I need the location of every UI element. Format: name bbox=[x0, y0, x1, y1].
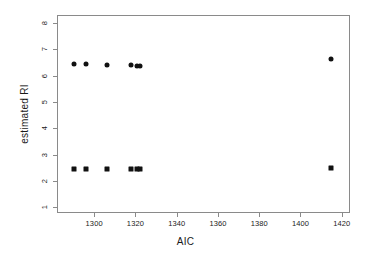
x-axis-tick bbox=[218, 213, 219, 217]
data-point bbox=[83, 166, 88, 171]
y-axis-tick-label: 6 bbox=[40, 73, 49, 77]
data-point bbox=[129, 167, 134, 172]
scatter-plot-figure: 1300132013401360138014001420 12345678 AI… bbox=[0, 0, 371, 261]
y-axis-tick-label: 4 bbox=[40, 126, 49, 130]
y-axis-tick-label: 7 bbox=[40, 47, 49, 51]
data-point bbox=[137, 63, 142, 68]
data-point bbox=[104, 167, 109, 172]
data-point bbox=[71, 61, 76, 66]
data-point bbox=[83, 62, 88, 67]
x-axis-tick bbox=[94, 213, 95, 217]
y-axis-tick bbox=[53, 128, 57, 129]
y-axis-tick bbox=[53, 207, 57, 208]
x-axis-tick bbox=[259, 213, 260, 217]
x-axis-tick-label: 1340 bbox=[168, 219, 185, 228]
y-axis-tick-label: 3 bbox=[40, 152, 49, 156]
data-point bbox=[137, 167, 142, 172]
y-axis-title: estimated RI bbox=[19, 84, 30, 144]
x-axis-title: AIC bbox=[0, 236, 371, 247]
x-axis-tick bbox=[135, 213, 136, 217]
x-axis-tick bbox=[300, 213, 301, 217]
data-point bbox=[71, 166, 76, 171]
data-point bbox=[329, 165, 334, 170]
x-axis-tick bbox=[177, 213, 178, 217]
x-axis-tick-label: 1300 bbox=[86, 219, 103, 228]
x-axis-tick-label: 1380 bbox=[251, 219, 268, 228]
y-axis-tick-label: 1 bbox=[40, 205, 49, 209]
y-axis-tick bbox=[53, 181, 57, 182]
y-axis-tick-label: 5 bbox=[40, 100, 49, 104]
x-axis-tick-label: 1320 bbox=[127, 219, 144, 228]
y-axis-tick bbox=[53, 23, 57, 24]
y-axis-tick bbox=[53, 102, 57, 103]
y-axis-tick bbox=[53, 49, 57, 50]
y-axis-tick-label: 8 bbox=[40, 21, 49, 25]
data-point bbox=[104, 62, 109, 67]
x-axis-tick-label: 1420 bbox=[333, 219, 350, 228]
y-axis-tick bbox=[53, 155, 57, 156]
x-axis-tick bbox=[342, 213, 343, 217]
plot-data-area bbox=[57, 15, 350, 213]
x-axis-tick-label: 1400 bbox=[292, 219, 309, 228]
data-point bbox=[129, 62, 134, 67]
data-point bbox=[329, 57, 334, 62]
x-axis-tick-label: 1360 bbox=[209, 219, 226, 228]
y-axis-tick bbox=[53, 76, 57, 77]
y-axis-tick-label: 2 bbox=[40, 179, 49, 183]
